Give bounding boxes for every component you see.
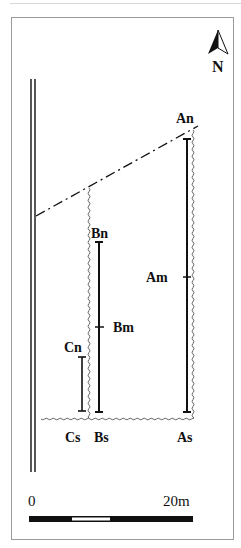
wavy-boundary-bottom — [41, 418, 193, 420]
transect-a — [183, 139, 191, 412]
label-cs: Cs — [65, 430, 81, 445]
scale-start-label: 0 — [28, 493, 36, 509]
label-cn: Cn — [64, 340, 82, 355]
scale-bar — [29, 516, 193, 522]
label-as: As — [177, 430, 193, 445]
wavy-boundary-middle — [88, 188, 90, 418]
double-line-boundary — [31, 79, 35, 472]
label-bm: Bm — [113, 320, 134, 335]
scale-end-label: 20m — [163, 493, 190, 509]
label-bn: Bn — [91, 226, 108, 241]
north-label: N — [212, 58, 224, 75]
site-plan: N An Am As Bn Bm Bs Cn Cs 0 20m — [0, 0, 241, 548]
label-bs: Bs — [94, 430, 109, 445]
transect-b — [95, 242, 104, 412]
north-arrow-icon — [208, 30, 228, 54]
transect-c — [78, 357, 86, 411]
wavy-boundary-right — [192, 130, 194, 418]
label-am: Am — [146, 270, 168, 285]
label-an: An — [176, 111, 194, 126]
dash-dot-line — [36, 126, 198, 216]
